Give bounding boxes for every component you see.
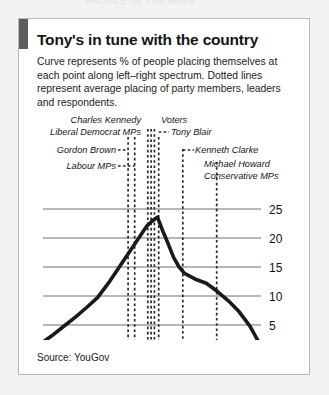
annotation-michael-howard: Michael Howard: [204, 159, 271, 169]
page-title: Tony's in tune with the country: [37, 31, 295, 49]
y-tick-15: 15: [269, 261, 283, 275]
annotation-gordon-brown: Gordon Brown: [57, 145, 116, 155]
annotation-kenneth-clarke: Kenneth Clarke: [195, 145, 258, 155]
annotation-liberal-democrat-mps: Liberal Democrat MPs: [50, 127, 141, 137]
y-tick-5: 5: [269, 319, 276, 333]
source-note: Source: YouGov: [37, 352, 109, 363]
chart-plot-area: Charles Kennedy Voters Liberal Democrat …: [19, 115, 309, 340]
infographic-panel: Tony's in tune with the country Curve re…: [18, 18, 310, 375]
y-tick-25: 25: [269, 203, 283, 217]
annotation-conservative-mps: Conservative MPs: [204, 171, 279, 181]
y-tick-20: 20: [269, 232, 283, 246]
cut-off-header-text: PROFILE OF THE WEEK: [86, 0, 196, 6]
cut-off-header-strip: PROFILE OF THE WEEK: [0, 0, 329, 14]
accent-bar: [19, 19, 28, 49]
annotation-labels: Charles Kennedy Voters Liberal Democrat …: [50, 115, 279, 181]
gridlines: [43, 209, 261, 325]
y-axis-labels: 25 20 15 10 5 0: [269, 203, 283, 340]
annotation-tony-blair: Tony Blair: [171, 127, 212, 137]
line-chart-svg: Charles Kennedy Voters Liberal Democrat …: [19, 115, 309, 340]
annotation-labour-mps: Labour MPs: [66, 161, 116, 171]
y-tick-10: 10: [269, 290, 283, 304]
annotation-charles-kennedy: Charles Kennedy: [71, 115, 143, 125]
chart-description: Curve represents % of people placing the…: [37, 55, 289, 109]
annotation-voters: Voters: [161, 115, 188, 125]
